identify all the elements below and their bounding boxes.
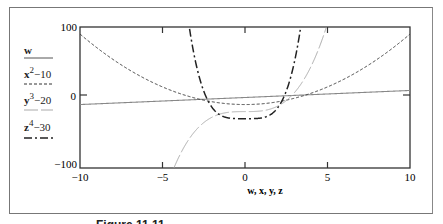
legend-item-z4: z4−30 <box>24 118 51 133</box>
legend-w-label: w <box>24 44 32 56</box>
legend-y-rest: −20 <box>34 94 51 106</box>
legend-item-x2: x2−10 <box>24 65 51 80</box>
y-tick-top: 100 <box>61 21 78 33</box>
series-line-3 <box>190 29 301 119</box>
x-tick-0: −10 <box>71 171 89 183</box>
x-tick-1: −5 <box>157 171 169 183</box>
x-tick-3: 5 <box>325 171 331 183</box>
series-line-0 <box>80 90 410 104</box>
x-tick-2: 0 <box>242 171 248 183</box>
legend-item-w: w <box>24 44 32 56</box>
series-line-1 <box>80 34 410 105</box>
x-tick-4: 10 <box>405 171 417 183</box>
plot-area: 100 0 −100 −10 −5 0 5 10 w, x, y, z <box>0 0 443 224</box>
figure-caption: Figure 11.11 ... <box>96 218 178 224</box>
legend-z-rest: −30 <box>33 121 50 133</box>
legend-item-y3: y3−20 <box>24 91 51 106</box>
x-axis-label: w, x, y, z <box>247 185 283 196</box>
legend-x-rest: −10 <box>34 68 51 80</box>
y-tick-zero: 0 <box>71 90 77 102</box>
y-tick-bottom: −100 <box>54 158 77 170</box>
